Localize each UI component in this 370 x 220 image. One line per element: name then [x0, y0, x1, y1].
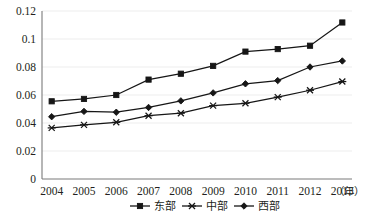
- gridlines: [42, 11, 352, 151]
- y-tick-label-0.06: 0.06: [16, 89, 36, 101]
- data-point-cross: [177, 110, 185, 116]
- data-point-cross: [188, 203, 196, 209]
- data-point-cross: [338, 79, 346, 85]
- series-line: [52, 22, 343, 101]
- x-tick-label-2007: 2007: [137, 185, 160, 197]
- data-point-diamond: [241, 203, 247, 209]
- x-tick-label-2005: 2005: [72, 185, 95, 197]
- data-point-diamond: [339, 58, 345, 64]
- y-tick-label-0.08: 0.08: [16, 61, 36, 73]
- legend-label-中部: 中部: [206, 199, 228, 212]
- legend-item-西部[interactable]: 西部: [234, 199, 280, 212]
- data-point-diamond: [48, 114, 54, 120]
- data-point-square: [178, 71, 183, 76]
- data-point-diamond: [81, 108, 87, 114]
- data-point-cross: [241, 100, 249, 106]
- line-chart: 0.12 0.1 0.08 0.06 0.04 0.02 0 200420052…: [0, 0, 370, 220]
- x-axis-tick-labels: 2004200520062007200820092010201120122013: [40, 185, 354, 197]
- x-tick-label-2012: 2012: [299, 185, 322, 197]
- data-point-square: [307, 43, 312, 48]
- series-东部: [49, 20, 345, 104]
- y-tick-label-0: 0: [30, 173, 36, 185]
- legend-label-西部: 西部: [258, 199, 280, 212]
- data-point-square: [146, 77, 151, 82]
- data-point-square: [211, 63, 216, 68]
- data-point-cross: [48, 125, 56, 131]
- y-tick-label-0.02: 0.02: [16, 145, 36, 157]
- data-point-diamond: [307, 64, 313, 70]
- x-tick-label-2010: 2010: [234, 185, 257, 197]
- data-point-square: [81, 96, 86, 101]
- data-point-diamond: [145, 104, 151, 110]
- data-point-cross: [209, 103, 217, 109]
- series-line: [52, 82, 343, 128]
- data-point-cross: [306, 87, 314, 93]
- x-tick-label-2008: 2008: [169, 185, 192, 197]
- data-point-square: [137, 203, 142, 208]
- data-point-cross: [112, 119, 120, 125]
- data-point-diamond: [275, 77, 281, 83]
- data-point-diamond: [113, 109, 119, 115]
- x-tick-label-2004: 2004: [40, 185, 63, 197]
- data-point-diamond: [242, 81, 248, 87]
- chart-legend: 东部中部西部: [130, 199, 280, 212]
- y-tick-label-0.10: 0.1: [22, 33, 37, 45]
- data-point-square: [49, 99, 54, 104]
- legend-item-中部[interactable]: 中部: [182, 199, 228, 212]
- y-axis-tick-labels: 0.12 0.1 0.08 0.06 0.04 0.02 0: [16, 5, 36, 185]
- data-point-square: [243, 49, 248, 54]
- data-point-cross: [145, 113, 153, 119]
- data-point-diamond: [178, 98, 184, 104]
- data-point-square: [275, 46, 280, 51]
- x-axis-unit-label: （年）: [334, 185, 364, 197]
- y-tick-label-0.04: 0.04: [16, 117, 36, 129]
- legend-label-东部: 东部: [154, 199, 176, 212]
- series-layer: [48, 20, 347, 131]
- data-point-square: [340, 20, 345, 25]
- x-tick-label-2011: 2011: [266, 185, 289, 197]
- x-tick-label-2006: 2006: [105, 185, 128, 197]
- x-tick-label-2009: 2009: [202, 185, 225, 197]
- chart-canvas: 0.12 0.1 0.08 0.06 0.04 0.02 0 200420052…: [0, 0, 370, 220]
- y-tick-label-0.12: 0.12: [16, 5, 36, 17]
- data-point-square: [114, 92, 119, 97]
- legend-item-东部[interactable]: 东部: [130, 199, 176, 212]
